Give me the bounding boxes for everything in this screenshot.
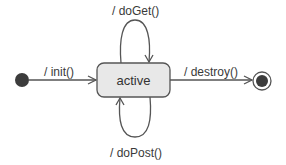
transition-doget: / doGet(): [112, 4, 159, 63]
transition-label-doget: / doGet(): [112, 4, 159, 18]
transition-label-init: / init(): [44, 65, 74, 79]
state-diagram: / init() active / doGet() / doPost() / d…: [0, 0, 286, 165]
transition-destroy: / destroy(): [170, 65, 252, 84]
final-state-node: [253, 72, 271, 90]
transition-label-dopost: / doPost(): [110, 146, 162, 160]
transition-init: / init(): [29, 65, 96, 84]
state-active: active: [97, 63, 170, 97]
initial-state-node: [15, 73, 29, 87]
state-active-label: active: [117, 73, 151, 88]
transition-dopost: / doPost(): [110, 97, 162, 160]
transition-label-destroy: / destroy(): [184, 65, 238, 79]
